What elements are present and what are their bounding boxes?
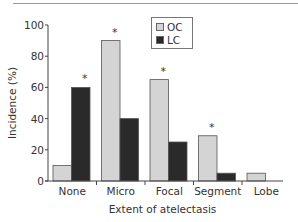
legend-label-oc: OC — [167, 21, 183, 33]
x-tick-label: Focal — [156, 185, 183, 197]
legend: OC LC — [151, 17, 193, 49]
y-axis-title: Incidence (%) — [6, 67, 18, 139]
legend-item-lc: LC — [156, 34, 180, 46]
y-tick-label: 60 — [31, 81, 44, 93]
y-tick-label: 0 — [37, 175, 44, 187]
legend-swatch-oc — [156, 23, 164, 31]
bar-micro-oc — [102, 41, 121, 181]
legend-label-lc: LC — [167, 34, 180, 46]
bar-focal-oc — [150, 80, 169, 181]
significance-marker: * — [161, 65, 167, 78]
x-tick-label: Segment — [194, 185, 241, 197]
x-tick-label: None — [59, 185, 86, 197]
significance-marker: * — [112, 26, 118, 39]
x-axis-title: Extent of atelectasis — [109, 203, 217, 215]
bar-segment-oc — [199, 136, 218, 181]
significance-marker: * — [209, 121, 215, 134]
significance-marker: * — [82, 72, 88, 85]
y-tick-label: 100 — [24, 19, 44, 31]
bar-segment-lc — [217, 173, 236, 181]
legend-item-oc: OC — [156, 21, 183, 33]
bar-chart: ****020406080100NoneMicroFocalSegmentLob… — [0, 0, 298, 222]
legend-swatch-lc — [156, 36, 164, 44]
y-tick-label: 40 — [31, 113, 44, 125]
x-tick-label: Lobe — [254, 185, 279, 197]
bar-micro-lc — [120, 119, 139, 181]
x-tick-label: Micro — [107, 185, 135, 197]
bar-lobe-oc — [247, 173, 266, 181]
bar-none-oc — [53, 165, 72, 181]
y-tick-label: 80 — [31, 50, 44, 62]
bar-none-lc — [72, 87, 91, 181]
bar-focal-lc — [169, 142, 188, 181]
y-tick-label: 20 — [31, 144, 44, 156]
